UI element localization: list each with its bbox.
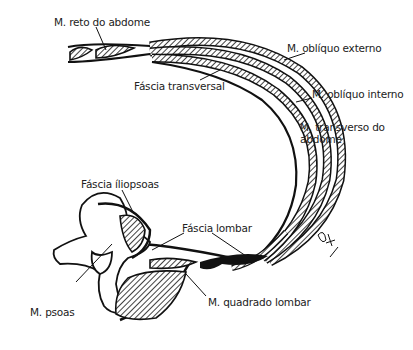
label-iliopsoas-fascia: Fáscia íliopsoas (81, 178, 159, 190)
label-internal-oblique: M. oblíquo interno (312, 88, 404, 100)
abdominal-wall-layers (150, 41, 342, 268)
label-psoas: M. psoas (30, 306, 75, 318)
label-transversus-line1: M. transverso do (300, 121, 385, 133)
label-transversalis-fascia: Fáscia transversal (134, 80, 225, 92)
label-external-oblique: M. oblíquo externo (287, 42, 381, 54)
quadratus-lumborum (116, 258, 196, 319)
label-transversus-line2: abdome (300, 133, 342, 145)
artist-signature (318, 232, 338, 257)
label-quadratus-lumborum: M. quadrado lombar (208, 296, 311, 308)
label-rectus-abdominis: M. reto do abdome (54, 16, 150, 28)
label-lumbar-fascia: Fáscia lombar (182, 222, 252, 234)
